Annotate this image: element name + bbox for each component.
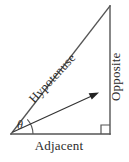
opposite-label: Opposite	[109, 52, 122, 101]
arrow-head-icon	[89, 93, 99, 100]
angle-arc-icon	[27, 119, 33, 134]
opposite-label-wrapper: Opposite	[107, 0, 120, 46]
theta-angle-label: θ	[17, 119, 23, 131]
trigonometry-triangle-figure: Hypotenuse Opposite Adjacent θ	[0, 0, 129, 162]
right-angle-marker-icon	[101, 125, 110, 134]
adjacent-label: Adjacent	[0, 139, 118, 152]
angle-direction-arrow-line	[13, 95, 95, 133]
